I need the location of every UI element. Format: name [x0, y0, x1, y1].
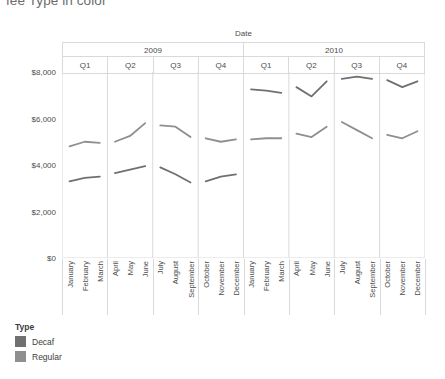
series-line-decaf: [206, 174, 236, 181]
y-tick-label: $4,000: [10, 161, 56, 170]
quarter-header-cell: Q3: [335, 57, 380, 73]
x-tick-label: November: [395, 259, 410, 317]
x-tick-label: March: [92, 259, 107, 317]
series-line-decaf: [251, 89, 281, 92]
x-tick-label: June: [319, 259, 334, 317]
quarter-separator: [62, 259, 63, 315]
x-tick-label: January: [62, 259, 77, 317]
x-axis-month-labels: JanuaryFebruaryMarchAprilMayJuneJulyAugu…: [62, 259, 425, 317]
quarter-separator: [153, 259, 154, 315]
year-header-cell: 2010: [244, 43, 425, 57]
x-tick-label: July: [334, 259, 349, 317]
x-tick-label: October: [380, 259, 395, 317]
page-title: fee Type in color: [6, 0, 107, 8]
x-tick-label: February: [77, 259, 92, 317]
y-tick-label: $0: [10, 254, 56, 263]
series-line-decaf: [342, 77, 372, 79]
quarter-separator: [380, 259, 381, 315]
quarter-separator: [425, 259, 426, 315]
x-tick-label: May: [304, 259, 319, 317]
plot-area: [62, 72, 425, 258]
line-chart-svg: [62, 72, 425, 258]
x-tick-label: September: [183, 259, 198, 317]
legend-item-regular[interactable]: Regular: [15, 351, 135, 362]
series-line-regular: [387, 131, 417, 138]
series-line-regular: [342, 122, 372, 138]
x-tick-label: September: [365, 259, 380, 317]
legend-item-decaf[interactable]: Decaf: [15, 336, 135, 347]
legend: Type Decaf Regular: [15, 322, 135, 366]
x-tick-label: February: [259, 259, 274, 317]
series-line-regular: [296, 127, 326, 137]
x-tick-label: January: [244, 259, 259, 317]
y-axis-title: Profit: [0, 150, 1, 169]
x-tick-label: April: [289, 259, 304, 317]
x-tick-label: November: [213, 259, 228, 317]
quarter-header-cell: Q1: [62, 57, 108, 73]
quarter-separator: [244, 259, 245, 315]
series-line-regular: [251, 138, 281, 139]
quarter-separator: [334, 259, 335, 315]
quarter-separator: [107, 259, 108, 315]
series-line-decaf: [387, 80, 417, 87]
x-tick-label: December: [228, 259, 243, 317]
legend-swatch-icon: [15, 336, 26, 347]
x-tick-label: June: [138, 259, 153, 317]
quarter-separator: [289, 259, 290, 315]
y-tick-label: $8,000: [10, 68, 56, 77]
quarter-header-cell: Q3: [154, 57, 199, 73]
x-tick-label: April: [107, 259, 122, 317]
quarter-separator: [198, 259, 199, 315]
x-tick-label: October: [198, 259, 213, 317]
legend-item-label: Regular: [32, 352, 62, 362]
year-header-cell: 2009: [62, 43, 244, 57]
x-tick-label: March: [274, 259, 289, 317]
legend-item-label: Decaf: [32, 337, 54, 347]
series-line-decaf: [70, 177, 100, 182]
series-line-regular: [206, 138, 236, 141]
legend-swatch-icon: [15, 351, 26, 362]
year-header-row: 2009 2010: [62, 42, 425, 57]
x-tick-label: July: [153, 259, 168, 317]
quarter-header-cell: Q1: [244, 57, 289, 73]
quarter-header-cell: Q4: [199, 57, 244, 73]
x-axis-title: Date: [62, 29, 425, 38]
quarter-header-cell: Q4: [380, 57, 425, 73]
x-tick-label: August: [349, 259, 364, 317]
y-axis-ticks: $0$2,000$4,000$6,000$8,000: [8, 72, 56, 258]
y-tick-label: $6,000: [10, 114, 56, 123]
quarter-header-cell: Q2: [108, 57, 153, 73]
x-tick-label: December: [410, 259, 425, 317]
x-tick-label: August: [168, 259, 183, 317]
series-line-regular: [160, 125, 190, 137]
series-line-decaf: [160, 167, 190, 182]
series-line-regular: [70, 142, 100, 147]
series-line-decaf: [296, 81, 326, 96]
series-line-regular: [115, 123, 145, 142]
legend-title: Type: [15, 322, 135, 332]
series-line-decaf: [115, 166, 145, 173]
quarter-header-cell: Q2: [289, 57, 334, 73]
x-tick-label: May: [123, 259, 138, 317]
y-tick-label: $2,000: [10, 207, 56, 216]
